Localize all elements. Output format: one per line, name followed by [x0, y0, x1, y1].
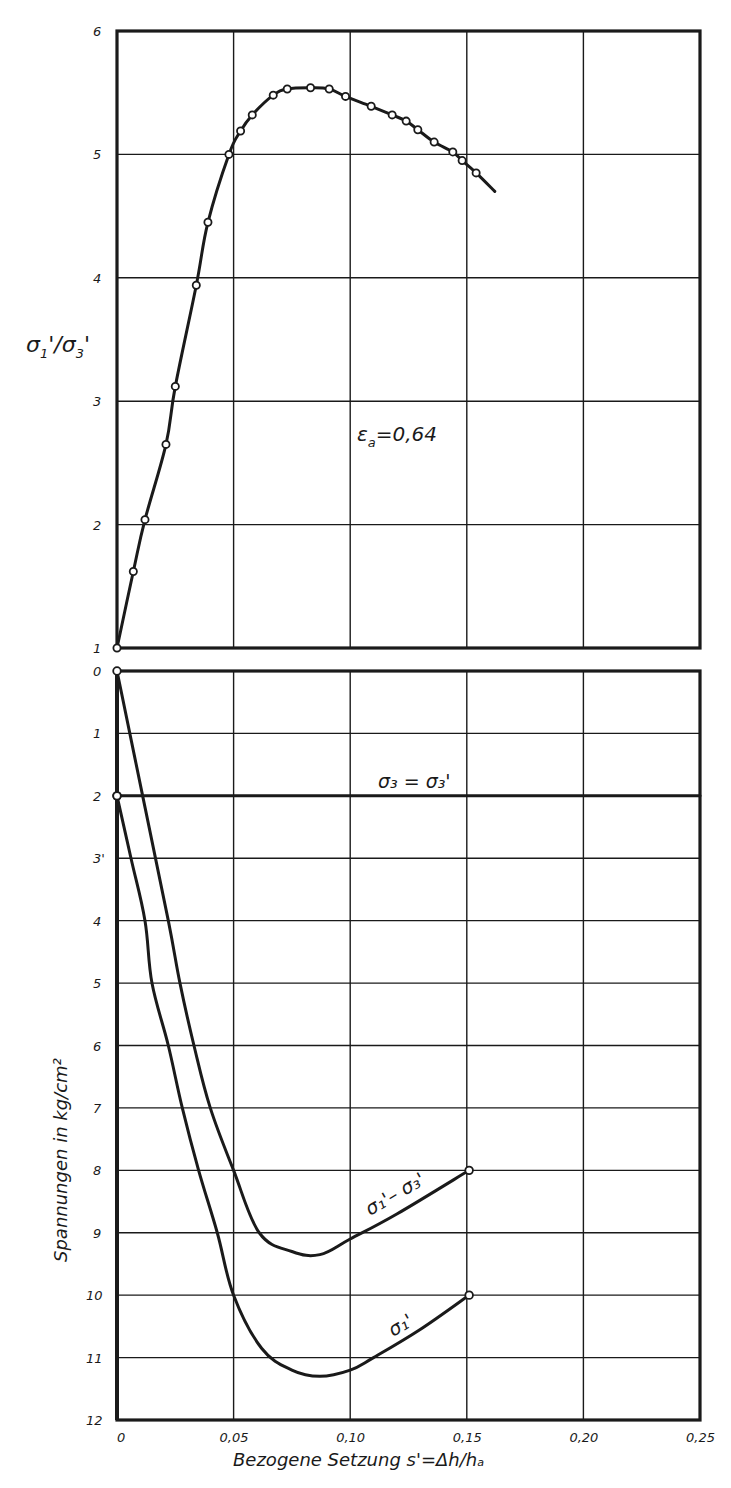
ratio-data-point — [237, 127, 244, 134]
ratio-data-point — [403, 117, 410, 124]
ratio-data-point — [449, 148, 456, 155]
bottom-y-tick-label: 10 — [86, 1288, 103, 1303]
ratio-data-point — [270, 92, 277, 99]
sigma1-curve-marker — [465, 1291, 473, 1299]
bottom-y-tick-label: 1 — [93, 726, 101, 741]
top-y-axis-label: σ1'/σ3' — [26, 332, 90, 361]
bottom-y-tick-label: 2 — [93, 789, 101, 804]
top-y-tick-label: 6 — [93, 24, 101, 39]
bottom-y-tick-label: 7 — [93, 1101, 102, 1116]
bottom-y-tick-label: 12 — [86, 1413, 103, 1428]
ratio-data-point — [141, 516, 148, 523]
bottom-y-tick-label: 11 — [86, 1351, 103, 1366]
top-y-tick-label: 2 — [93, 518, 101, 533]
ratio-data-point — [162, 441, 169, 448]
bottom-y-tick-label: 4 — [93, 914, 101, 929]
ratio-data-point — [368, 103, 375, 110]
ratio-data-point — [249, 111, 256, 118]
ratio-data-point — [342, 93, 349, 100]
sigma1-curve — [117, 796, 469, 1376]
ratio-data-point — [307, 84, 314, 91]
ratio-curve — [117, 88, 495, 648]
ratio-data-point — [130, 568, 137, 575]
sigma3-curve-label: σ₃ = σ₃' — [378, 770, 451, 792]
ratio-data-point — [193, 282, 200, 289]
bottom-y-tick-label: 8 — [93, 1163, 101, 1178]
bottom-y-axis-label: Spannungen in kg/cm² — [50, 1058, 71, 1262]
bottom-y-tick-label: 0 — [93, 664, 101, 679]
top-y-tick-label: 1 — [93, 641, 101, 656]
ratio-data-point — [225, 151, 232, 158]
ratio-data-point — [414, 126, 421, 133]
sigma-difference-curve-marker — [113, 667, 121, 675]
ratio-data-point — [284, 85, 291, 92]
bottom-y-tick-label: 6 — [93, 1039, 101, 1054]
top-y-tick-label: 3 — [93, 394, 101, 409]
bottom-y-tick-label: 5 — [93, 976, 101, 991]
ratio-data-point — [172, 383, 179, 390]
sigma-difference-curve-marker — [465, 1167, 473, 1175]
bottom-y-tick-label: 3' — [93, 851, 105, 866]
top-y-tick-label: 4 — [93, 271, 101, 286]
ratio-data-point — [389, 111, 396, 118]
x-tick-label: 0 — [117, 1430, 125, 1445]
bottom-y-tick-label: 9 — [93, 1226, 101, 1241]
soil-test-chart: 123456 00,050,100,150,200,250123'4567891… — [0, 0, 731, 1488]
sigma1-curve-marker — [113, 792, 121, 800]
ratio-data-point — [204, 219, 211, 226]
x-axis-label: Bezogene Setzung s'=Δh/hₐ — [233, 1449, 484, 1470]
x-tick-label: 0,10 — [336, 1430, 365, 1445]
x-tick-label: 0,25 — [686, 1430, 715, 1445]
ratio-data-point — [473, 169, 480, 176]
ratio-data-point — [431, 138, 438, 145]
top-panel-ratio-plot: 123456 — [93, 24, 700, 656]
ratio-data-point — [459, 157, 466, 164]
ratio-data-point — [113, 644, 120, 651]
x-tick-label: 0,05 — [220, 1430, 249, 1445]
void-ratio-annotation: εa=0,64 — [357, 422, 437, 450]
x-tick-label: 0,20 — [569, 1430, 598, 1445]
top-y-tick-label: 5 — [93, 147, 101, 162]
ratio-data-point — [326, 85, 333, 92]
sigma-difference-curve-label: σ₁'– σ₃' — [361, 1168, 429, 1220]
x-tick-label: 0,15 — [453, 1430, 482, 1445]
